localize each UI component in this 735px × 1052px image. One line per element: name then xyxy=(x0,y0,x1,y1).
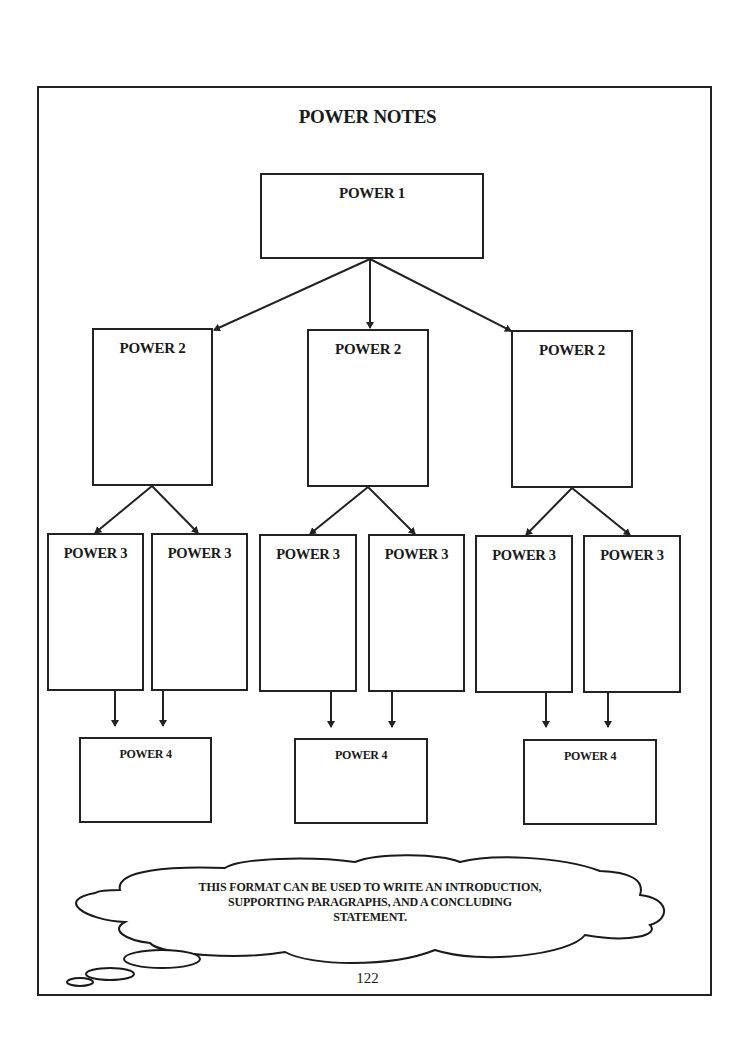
power-2-label: POWER 2 xyxy=(513,342,631,359)
power-4-label: POWER 4 xyxy=(525,749,655,764)
arrow-p1-to-p2-right xyxy=(370,259,511,331)
cloud-caption: THIS FORMAT CAN BE USED TO WRITE AN INTR… xyxy=(150,880,590,925)
power-1-box: POWER 1 xyxy=(260,173,484,259)
power-3-box: POWER 3 xyxy=(151,533,248,691)
power-1-label: POWER 1 xyxy=(262,185,482,202)
power-3-label: POWER 3 xyxy=(261,546,355,563)
page-number: 122 xyxy=(0,970,735,987)
power-3-box: POWER 3 xyxy=(583,535,681,693)
power-4-label: POWER 4 xyxy=(296,748,426,763)
cloud-caption-line: STATEMENT. xyxy=(150,910,590,925)
power-3-label: POWER 3 xyxy=(153,545,246,562)
power-3-label: POWER 3 xyxy=(585,547,679,564)
power-3-box: POWER 3 xyxy=(368,534,465,692)
power-2-label: POWER 2 xyxy=(94,340,211,357)
cloud-caption-line: THIS FORMAT CAN BE USED TO WRITE AN INTR… xyxy=(150,880,590,895)
power-3-label: POWER 3 xyxy=(477,547,571,564)
arrow-p1-to-p2-left xyxy=(214,259,370,330)
power-2-box: POWER 2 xyxy=(307,329,429,487)
power-4-box: POWER 4 xyxy=(523,739,657,825)
power-3-box: POWER 3 xyxy=(47,533,144,691)
power-3-label: POWER 3 xyxy=(370,546,463,563)
power-2-box: POWER 2 xyxy=(92,328,213,486)
power-4-label: POWER 4 xyxy=(81,747,210,762)
power-2-label: POWER 2 xyxy=(309,341,427,358)
power-4-box: POWER 4 xyxy=(79,737,212,823)
power-3-box: POWER 3 xyxy=(475,535,573,693)
power-3-label: POWER 3 xyxy=(49,545,142,562)
power-4-box: POWER 4 xyxy=(294,738,428,824)
power-3-box: POWER 3 xyxy=(259,534,357,692)
power-2-box: POWER 2 xyxy=(511,330,633,488)
cloud-caption-line: SUPPORTING PARAGRAPHS, AND A CONCLUDING xyxy=(150,895,590,910)
